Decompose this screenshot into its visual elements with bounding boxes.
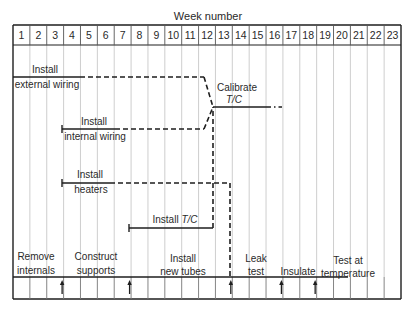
activity-label: heaters [74, 184, 107, 195]
milestone-arrows [60, 280, 317, 294]
week-number-13: 13 [218, 29, 230, 41]
activity-label: Install [81, 116, 107, 127]
week-number-3: 3 [52, 29, 58, 41]
week-number-22: 22 [370, 29, 382, 41]
week-number-2: 2 [35, 29, 41, 41]
week-number-18: 18 [302, 29, 314, 41]
phase-label: Construct [75, 251, 118, 262]
activity-calibrate-tc: Calibrate T/C [213, 82, 282, 107]
week-number-15: 15 [252, 29, 264, 41]
week-number-1: 1 [19, 29, 25, 41]
phase-label: supports [77, 265, 115, 276]
week-grid-lines [30, 45, 384, 277]
week-number-5: 5 [86, 29, 92, 41]
phase-label: temperature [321, 268, 375, 279]
week-number-12: 12 [201, 29, 213, 41]
week-number-9: 9 [153, 29, 159, 41]
week-number-10: 10 [167, 29, 179, 41]
week-number-20: 20 [336, 29, 348, 41]
activity-label: T/C [226, 94, 243, 105]
diagram-title: Week number [174, 10, 243, 22]
week-number-6: 6 [103, 29, 109, 41]
week-number-8: 8 [137, 29, 143, 41]
timeline-phase-labels: Remove internals Construct supports Inst… [17, 251, 375, 279]
week-number-4: 4 [69, 29, 75, 41]
week-number-11: 11 [185, 29, 196, 41]
week-number-14: 14 [235, 29, 247, 41]
week-number-21: 21 [353, 29, 365, 41]
phase-label: Install [170, 253, 196, 264]
week-number-17: 17 [286, 29, 298, 41]
activity-internal-wiring: Install internal wiring [62, 107, 213, 142]
week-number-16: 16 [269, 29, 281, 41]
activity-label: external wiring [15, 79, 79, 90]
phase-label: Leak [245, 253, 268, 264]
activity-label: Calibrate [217, 82, 257, 93]
week-number-19: 19 [319, 29, 331, 41]
week-number-7: 7 [120, 29, 126, 41]
activity-label: internal wiring [64, 131, 126, 142]
gantt-diagram: Week number 1234567891011121314151617181… [0, 0, 410, 312]
activity-external-wiring: Install external wiring [13, 64, 213, 107]
activity-label: Install [32, 64, 58, 75]
phase-label: Remove [17, 251, 55, 262]
activity-install-tc: Install T/C [129, 107, 213, 232]
phase-label: Insulate [280, 266, 315, 277]
week-number-23: 23 [387, 29, 399, 41]
phase-label: Test at [333, 255, 363, 266]
phase-label: test [248, 266, 264, 277]
activity-label: Install T/C [152, 214, 198, 225]
activity-label: Install [77, 169, 103, 180]
phase-label: internals [17, 265, 55, 276]
phase-label: new tubes [160, 266, 206, 277]
